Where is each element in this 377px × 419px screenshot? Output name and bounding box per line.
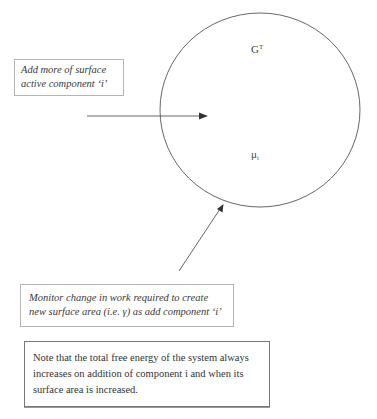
chemical-potential-label: μi [251, 148, 259, 161]
box-line: Monitor change in work required to creat… [29, 291, 225, 305]
box-line: Note that the total free energy of the s… [33, 350, 261, 366]
total-free-energy-label: GT [251, 43, 263, 55]
box-line: active component ‘i’ [21, 77, 117, 91]
box-line: Add more of surface [21, 63, 117, 77]
arrow-monitor-change [179, 204, 224, 271]
box-line: new surface area (i.e. γ) as add compone… [29, 305, 225, 319]
monitor-change-box: Monitor change in work required to creat… [20, 284, 234, 327]
box-line: increases on addition of component i and… [33, 366, 261, 382]
arrow-add-component [87, 113, 208, 120]
add-component-box: Add more of surface active component ‘i’ [14, 59, 124, 96]
box-line: surface area is increased. [33, 382, 261, 398]
note-box: Note that the total free energy of the s… [24, 341, 270, 407]
